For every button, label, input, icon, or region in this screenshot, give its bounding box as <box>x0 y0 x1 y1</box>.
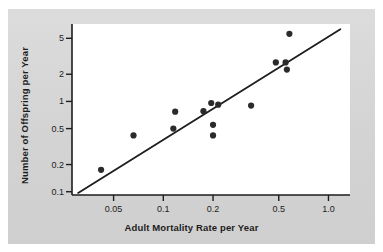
y-axis-ticks <box>66 38 72 191</box>
data-point <box>200 108 206 114</box>
x-axis-ticks <box>114 195 329 201</box>
data-point <box>248 102 254 108</box>
data-point <box>130 132 136 138</box>
data-point <box>284 67 290 73</box>
data-point <box>210 122 216 128</box>
data-point <box>215 102 221 108</box>
x-axis-tick-label: 0.1 <box>157 204 170 214</box>
data-point <box>98 167 104 173</box>
x-axis-tick-label: 0.05 <box>105 204 123 214</box>
data-point <box>172 109 178 115</box>
y-axis-title: Number of Offspring per Year <box>19 26 30 206</box>
x-axis-tick-label: 0.2 <box>207 204 220 214</box>
data-point <box>273 59 279 65</box>
data-point <box>286 31 292 37</box>
data-point <box>210 132 216 138</box>
x-axis-tick-label: 1.0 <box>322 204 335 214</box>
figure-container: 0.10.20.5125 0.050.10.20.51.0 Adult Mort… <box>0 0 383 252</box>
x-axis-tick-label: 0.5 <box>272 204 285 214</box>
data-point <box>282 59 288 65</box>
x-axis-title: Adult Mortality Rate per Year <box>0 222 383 233</box>
data-point <box>208 100 214 106</box>
data-point <box>170 126 176 132</box>
